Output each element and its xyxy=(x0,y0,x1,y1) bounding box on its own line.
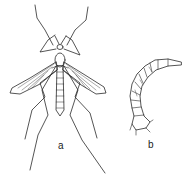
panel-label-a: a xyxy=(58,140,64,151)
larva-drawing xyxy=(0,0,186,179)
panel-label-b: b xyxy=(148,139,154,150)
